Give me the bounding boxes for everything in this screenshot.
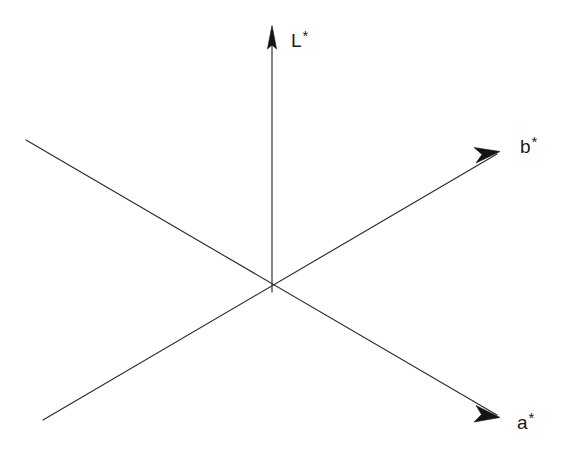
a-star-label-asterisk: *	[529, 409, 535, 426]
axis-diagram-figure: L* b* a*	[0, 0, 576, 450]
b-star-axis-label: b*	[520, 133, 536, 156]
axes-drawing	[0, 0, 576, 450]
a-star-label-base: a	[517, 412, 528, 433]
figure-background	[0, 0, 576, 450]
l-star-label-asterisk: *	[303, 27, 309, 44]
l-star-label-base: L	[291, 30, 302, 51]
l-star-axis-label: L*	[291, 27, 307, 50]
a-star-axis-label: a*	[517, 409, 533, 432]
b-star-label-asterisk: *	[532, 133, 538, 150]
b-star-label-base: b	[520, 136, 531, 157]
